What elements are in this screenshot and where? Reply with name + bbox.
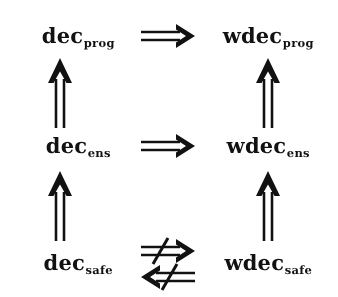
node-wdec-ens: wdecens xyxy=(227,135,310,156)
node-dec-safe-base: dec xyxy=(44,250,85,275)
node-dec-ens-subscript: ens xyxy=(88,146,111,160)
arrow-implies-right-prog xyxy=(140,23,196,49)
arrow-implies-up-wdec-safe-to-wdec-ens xyxy=(255,170,281,242)
arrow-not-implies-left-safe xyxy=(140,262,196,292)
node-dec-prog-subscript: prog xyxy=(84,36,115,50)
arrow-implies-up-dec-ens-to-dec-prog xyxy=(47,57,73,129)
node-dec-ens: decens xyxy=(46,135,111,156)
node-wdec-ens-subscript: ens xyxy=(287,146,310,160)
node-wdec-safe: wdecsafe xyxy=(224,252,311,273)
node-dec-prog: decprog xyxy=(42,25,114,46)
node-dec-ens-base: dec xyxy=(46,133,87,158)
node-dec-prog-base: dec xyxy=(42,23,83,48)
node-wdec-prog-base: wdec xyxy=(223,23,283,48)
implication-diagram: decprog wdecprog decens wdecens decsafe … xyxy=(0,0,338,297)
node-wdec-prog: wdecprog xyxy=(223,25,314,46)
arrow-implies-right-ens xyxy=(140,133,196,159)
node-wdec-safe-subscript: safe xyxy=(285,263,312,277)
node-wdec-ens-base: wdec xyxy=(227,133,287,158)
node-dec-safe-subscript: safe xyxy=(86,263,113,277)
node-wdec-safe-base: wdec xyxy=(224,250,284,275)
node-dec-safe: decsafe xyxy=(44,252,113,273)
arrow-implies-up-dec-safe-to-dec-ens xyxy=(47,170,73,242)
node-wdec-prog-subscript: prog xyxy=(283,36,314,50)
arrow-implies-up-wdec-ens-to-wdec-prog xyxy=(255,57,281,129)
